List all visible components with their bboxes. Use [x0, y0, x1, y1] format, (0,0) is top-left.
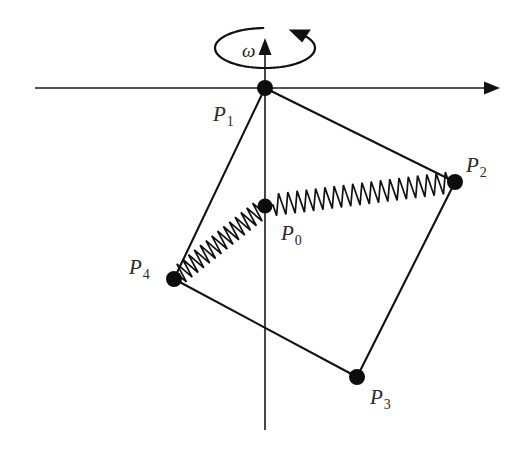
figure-canvas: ω P0P1P2P3P4 [0, 0, 527, 450]
point-labels-group: P0P1P2P3P4 [128, 102, 487, 412]
point-node-p1 [257, 80, 273, 96]
spring-p0-p4 [174, 203, 265, 282]
spring-p0-p2 [265, 172, 455, 215]
edge-p1-p2 [265, 88, 455, 182]
vertical-axis-arrowhead [259, 38, 272, 55]
body-edges-group [174, 88, 455, 377]
rotation-arrowhead-icon [289, 30, 311, 43]
point-node-p3 [349, 369, 365, 385]
point-label-p2: P2 [465, 153, 487, 180]
point-node-p2 [447, 174, 463, 190]
point-nodes-group [166, 80, 463, 385]
point-label-p3: P3 [369, 385, 391, 412]
point-label-p1: P1 [212, 102, 234, 129]
omega-label: ω [242, 40, 255, 61]
axes-group [35, 38, 500, 430]
edge-p2-p3 [357, 182, 455, 377]
physics-diagram: ω P0P1P2P3P4 [0, 0, 527, 450]
point-node-p4 [166, 271, 182, 287]
horizontal-axis-arrowhead [484, 82, 500, 95]
point-node-p0 [258, 199, 273, 214]
point-label-p4: P4 [128, 255, 150, 282]
point-label-p0: P0 [280, 221, 302, 248]
